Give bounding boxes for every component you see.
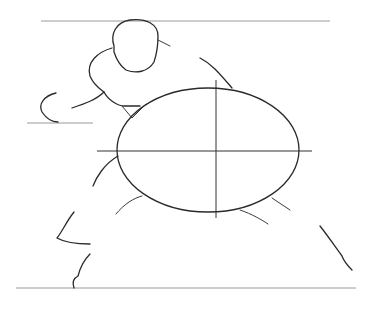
front-knee-line [272, 198, 290, 210]
shield-ellipse [117, 88, 299, 212]
sketch-canvas: Sketch of crouching figure holding oval … [0, 0, 377, 313]
front-thigh-line [240, 210, 268, 224]
arm-upper-line [72, 92, 104, 108]
hand-curve [41, 93, 58, 122]
ear-mark [158, 40, 170, 46]
rear-foot-line [73, 254, 90, 288]
rear-shin-line [57, 212, 90, 244]
front-shin-line [320, 226, 352, 270]
line-drawing [0, 0, 377, 313]
knee-curve [116, 196, 142, 214]
head-outline [113, 20, 158, 72]
rear-thigh-line [93, 156, 118, 186]
